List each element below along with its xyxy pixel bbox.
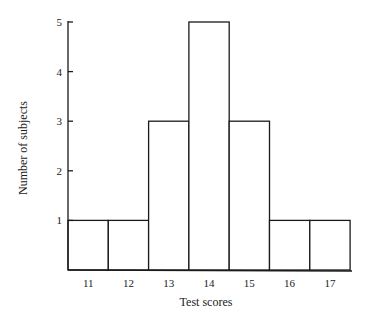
y-ticks: 12345	[57, 16, 74, 226]
histogram-bar-14	[189, 22, 229, 270]
histogram-bar-13	[149, 121, 189, 270]
histogram-bar-17	[310, 220, 350, 270]
y-tick-label: 3	[57, 115, 63, 127]
bars-group	[68, 22, 350, 270]
x-tick-label: 13	[163, 277, 175, 289]
y-tick-label: 2	[57, 165, 63, 177]
x-tick-labels: 11121314151617	[83, 277, 336, 289]
x-tick-label: 14	[204, 277, 216, 289]
y-axis-label: Number of subjects	[16, 101, 30, 195]
histogram-bar-11	[68, 220, 108, 270]
y-tick-label: 1	[57, 214, 63, 226]
histogram-bar-15	[229, 121, 269, 270]
histogram-bar-12	[108, 220, 148, 270]
x-tick-label: 17	[324, 277, 336, 289]
x-tick-label: 11	[83, 277, 94, 289]
x-tick-label: 16	[284, 277, 296, 289]
histogram-chart: 12345 11121314151617 Test scores Number …	[0, 0, 372, 325]
x-tick-label: 12	[123, 277, 134, 289]
histogram-bar-16	[270, 220, 310, 270]
x-axis-label: Test scores	[180, 295, 233, 309]
x-tick-label: 15	[244, 277, 256, 289]
y-tick-label: 5	[57, 16, 63, 28]
y-tick-label: 4	[57, 66, 63, 78]
